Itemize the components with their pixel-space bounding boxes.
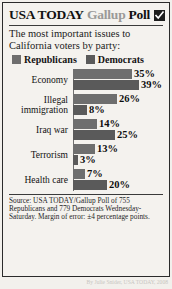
bar-value-republicans: 26% <box>119 94 140 104</box>
bar-democrats <box>73 80 139 90</box>
brand-usatoday: USA TODAY <box>9 8 84 22</box>
bar-democrats <box>73 155 78 165</box>
source-divider <box>9 194 163 195</box>
bar-group-economy: Economy 35% 39% <box>9 69 163 91</box>
legend-swatch-democrats <box>86 55 95 64</box>
source-note: Source: USA TODAY/Gallup Poll of 755 Rep… <box>9 197 163 222</box>
bar-group-health-care: Health care 7% 20% <box>9 169 163 191</box>
bar-republicans <box>73 119 97 129</box>
credit-line: By Julie Snider, USA TODAY, 2008 <box>0 279 168 286</box>
bar-stack-health-care: 7% 20% <box>71 169 163 191</box>
category-label-illegal-immigration: Illegal immigration <box>9 95 71 115</box>
bar-value-democrats: 3% <box>80 155 96 165</box>
legend-item-democrats: Democrats <box>86 54 144 65</box>
bar-row-republicans: 14% <box>73 119 163 129</box>
bar-value-democrats: 8% <box>89 105 105 115</box>
bar-value-democrats: 39% <box>141 80 162 90</box>
bar-stack-terrorism: 13% 3% <box>71 144 163 166</box>
bar-row-democrats: 39% <box>73 80 163 90</box>
bar-democrats <box>73 130 115 140</box>
bar-republicans <box>73 169 85 179</box>
bar-value-republicans: 13% <box>97 144 118 154</box>
category-label-iraq-war: Iraq war <box>9 125 71 135</box>
bar-stack-iraq-war: 14% 25% <box>71 119 163 141</box>
legend-label-republicans: Republicans <box>24 54 77 65</box>
category-label-economy: Economy <box>9 75 71 85</box>
bar-row-republicans: 35% <box>73 69 163 79</box>
bar-stack-illegal-immigration: 26% 8% <box>71 94 163 116</box>
bar-group-terrorism: Terrorism 13% 3% <box>9 144 163 166</box>
bar-democrats <box>73 180 107 190</box>
bar-value-republicans: 35% <box>134 69 155 79</box>
bar-value-democrats: 25% <box>117 130 138 140</box>
legend-swatch-republicans <box>12 55 21 64</box>
bar-value-republicans: 14% <box>99 119 120 129</box>
header-divider <box>9 25 163 26</box>
bar-row-republicans: 13% <box>73 144 163 154</box>
category-label-health-care: Health care <box>9 175 71 185</box>
bar-row-democrats: 25% <box>73 130 163 140</box>
headline: USA TODAY Gallup Poll <box>9 8 163 22</box>
chart-panel: USA TODAY Gallup Poll The most important… <box>2 2 170 277</box>
bar-republicans <box>73 94 117 104</box>
bar-row-democrats: 20% <box>73 180 163 190</box>
bar-group-illegal-immigration: Illegal immigration 26% 8% <box>9 94 163 116</box>
poll-infographic: USA TODAY Gallup Poll The most important… <box>0 0 172 289</box>
bar-row-democrats: 8% <box>73 105 163 115</box>
bar-group-iraq-war: Iraq war 14% 25% <box>9 119 163 141</box>
legend-label-democrats: Democrats <box>98 54 144 65</box>
category-label-terrorism: Terrorism <box>9 150 71 160</box>
bar-stack-economy: 35% 39% <box>71 69 163 91</box>
bar-value-republicans: 7% <box>87 169 103 179</box>
brand-gallup: Gallup <box>87 8 126 22</box>
bar-row-republicans: 7% <box>73 169 163 179</box>
bar-chart: Economy 35% 39% Illegal immigration <box>9 69 163 191</box>
chart-legend: Republicans Democrats <box>12 54 163 65</box>
bar-row-republicans: 26% <box>73 94 163 104</box>
brand-poll: Poll <box>128 8 150 22</box>
bar-democrats <box>73 105 87 115</box>
legend-item-republicans: Republicans <box>12 54 77 65</box>
bar-row-democrats: 3% <box>73 155 163 165</box>
checkmark-icon <box>154 10 165 21</box>
chart-subtitle: The most important issues to California … <box>9 28 163 51</box>
bar-republicans <box>73 69 132 79</box>
bar-value-democrats: 20% <box>109 180 130 190</box>
bar-republicans <box>73 144 95 154</box>
